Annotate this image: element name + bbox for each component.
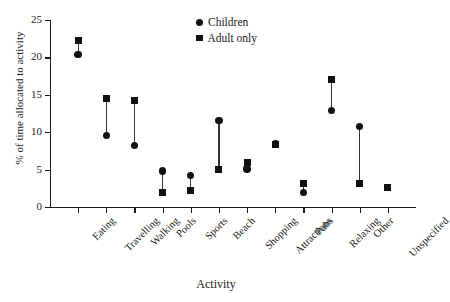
data-point-adult-only: [131, 97, 138, 104]
data-point-adult-only: [103, 95, 110, 102]
data-point-children: [243, 165, 250, 172]
x-axis-line: [50, 207, 416, 208]
data-point-children: [215, 117, 222, 124]
data-point-adult-only: [328, 76, 335, 83]
chart-legend: Children Adult only: [196, 14, 257, 46]
range-connector: [331, 80, 332, 111]
x-tick: [78, 208, 79, 213]
x-axis-title: Activity: [0, 277, 432, 292]
legend-label-children: Children: [208, 14, 248, 30]
legend-item-children: Children: [196, 14, 257, 30]
x-tick: [332, 208, 333, 213]
range-connector: [106, 99, 107, 136]
x-tick-label: Sports: [203, 215, 230, 242]
legend-item-adult-only: Adult only: [196, 30, 257, 46]
data-point-children: [131, 142, 138, 149]
x-tick: [247, 208, 248, 213]
x-tick-label: Beach: [231, 215, 257, 241]
y-tick-label: 10: [22, 126, 42, 137]
data-point-children: [103, 132, 110, 139]
y-tick-label: 0: [22, 201, 42, 212]
data-point-adult-only: [300, 180, 307, 187]
data-point-children: [356, 123, 363, 130]
circle-marker-icon: [196, 19, 203, 26]
data-point-children: [328, 107, 335, 114]
data-point-children: [187, 172, 194, 179]
range-connector: [218, 120, 219, 169]
data-point-children: [300, 189, 307, 196]
y-axis-line: [50, 20, 51, 208]
square-marker-icon: [196, 35, 203, 42]
data-point-adult-only: [187, 187, 194, 194]
data-point-children: [272, 140, 279, 147]
x-tick-label: Pubs: [313, 215, 335, 237]
data-point-adult-only: [356, 180, 363, 187]
data-point-adult-only: [159, 189, 166, 196]
y-tick-label: 25: [22, 14, 42, 25]
y-tick: [45, 95, 50, 96]
y-tick: [45, 207, 50, 208]
data-point-children: [74, 51, 81, 58]
y-tick: [45, 170, 50, 171]
y-tick-label: 5: [22, 164, 42, 175]
x-tick: [219, 208, 220, 213]
x-tick: [134, 208, 135, 213]
x-tick: [360, 208, 361, 213]
y-tick-label: 15: [22, 89, 42, 100]
x-tick: [191, 208, 192, 213]
range-connector: [134, 101, 135, 146]
range-connector: [359, 126, 360, 184]
x-tick: [106, 208, 107, 213]
x-tick: [275, 208, 276, 213]
x-tick: [388, 208, 389, 213]
data-point-adult-only: [75, 37, 82, 44]
data-point-children: [159, 167, 166, 174]
y-tick: [45, 20, 50, 21]
y-tick: [45, 57, 50, 58]
x-tick: [163, 208, 164, 213]
y-tick-label: 20: [22, 51, 42, 62]
legend-label-adult-only: Adult only: [208, 30, 258, 46]
y-tick: [45, 132, 50, 133]
x-tick-label: Unspecified: [407, 215, 450, 259]
x-tick-label: Eating: [90, 215, 117, 242]
data-point-adult-only: [215, 166, 222, 173]
data-point-adult-only: [384, 184, 391, 191]
x-tick: [303, 208, 304, 213]
